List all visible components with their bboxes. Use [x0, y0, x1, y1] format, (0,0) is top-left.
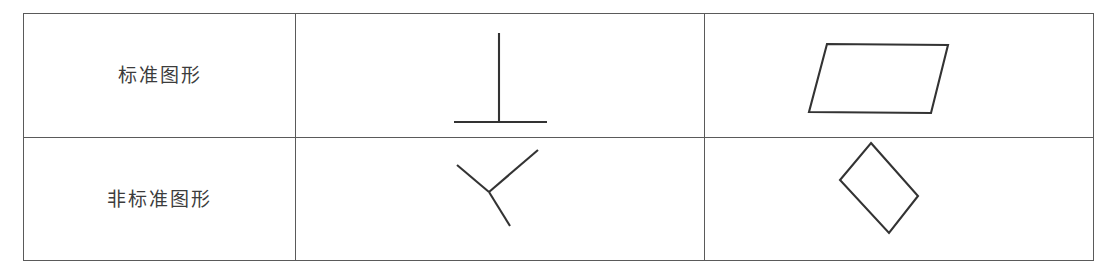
parallelogram-outline: [809, 44, 948, 113]
row-label-standard-text: 标准图形: [24, 66, 295, 85]
row-label-standard-cell: 标准图形: [24, 14, 296, 138]
perpendicular-symbol-rotated-icon: [296, 138, 704, 260]
rotated-perpendicular-lower-stroke: [489, 192, 510, 226]
row-label-nonstandard-text: 非标准图形: [24, 190, 295, 209]
figure-comparison-table: 标准图形 非标准图形: [23, 13, 1094, 261]
table-row-standard: 标准图形: [24, 14, 1094, 138]
table-body: 标准图形 非标准图形: [24, 14, 1094, 261]
figure-cell-standard-perpendicular: [296, 14, 705, 138]
rotated-perpendicular-upper-right-stroke: [489, 150, 538, 192]
table-row-nonstandard: 非标准图形: [24, 138, 1094, 261]
rotated-perpendicular-upper-left-stroke: [457, 165, 489, 192]
figure-cell-nonstandard-rotated-rectangle: [705, 138, 1094, 261]
figure-comparison-table-container: 标准图形 非标准图形: [0, 0, 1113, 273]
parallelogram-upright-icon: [705, 14, 1093, 137]
figure-cell-nonstandard-perpendicular: [296, 138, 705, 261]
rotated-rectangle-outline: [840, 143, 918, 233]
row-label-nonstandard-cell: 非标准图形: [24, 138, 296, 261]
figure-cell-standard-parallelogram: [705, 14, 1094, 138]
rotated-rectangle-diamond-icon: [705, 138, 1093, 260]
perpendicular-symbol-upright-icon: [296, 14, 704, 137]
